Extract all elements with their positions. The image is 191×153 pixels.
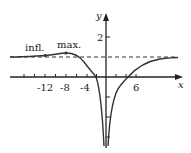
x-tick-6: 6 (133, 82, 139, 93)
x-tick-m4: -4 (80, 82, 90, 93)
inflection-point (43, 54, 46, 57)
y-axis-arrow-icon (103, 13, 109, 21)
y-tick-2: 2 (97, 32, 103, 43)
y-axis-label: y (95, 10, 102, 21)
infl-label: infl. (25, 42, 45, 53)
function-graph: infl. max. y x 2 -12 -8 -4 6 (0, 0, 191, 153)
x-axis-label: x (178, 79, 184, 90)
x-tick-m8: -8 (60, 82, 70, 93)
max-label: max. (57, 39, 81, 50)
maximum-point (64, 51, 67, 54)
x-tick-m12: -12 (37, 82, 53, 93)
function-curve (10, 53, 178, 146)
